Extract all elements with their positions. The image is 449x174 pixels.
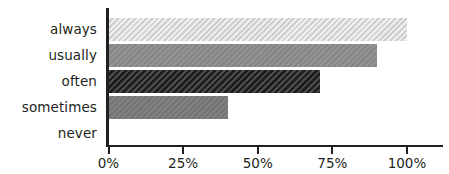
bar-often <box>109 70 320 93</box>
x-axis-tick-label: 100% <box>377 154 437 172</box>
x-axis-tick <box>406 147 408 154</box>
x-axis-line <box>106 145 443 148</box>
bar-sometimes <box>109 96 228 119</box>
bar-chart: always usually often sometimes never 0% … <box>0 0 449 174</box>
x-axis-tick <box>257 147 259 154</box>
x-axis-tick-label: 75% <box>302 154 362 172</box>
x-axis-tick <box>331 147 333 154</box>
x-axis-tick-label: 25% <box>153 154 213 172</box>
bar-always <box>109 18 407 41</box>
x-axis-tick-label: 0% <box>79 154 139 172</box>
x-axis-tick-label: 50% <box>228 154 288 172</box>
category-label-usually: usually <box>2 43 97 67</box>
x-axis-tick <box>182 147 184 154</box>
category-label-always: always <box>2 17 97 41</box>
category-label-often: often <box>2 69 97 93</box>
category-label-sometimes: sometimes <box>2 95 97 119</box>
bar-usually <box>109 44 377 67</box>
y-axis-line <box>106 8 109 147</box>
category-label-never: never <box>2 121 97 145</box>
x-axis-tick <box>108 147 110 154</box>
